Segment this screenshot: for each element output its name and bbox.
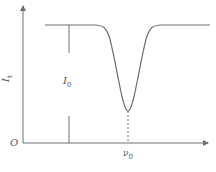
intensity-curve (45, 25, 210, 111)
i0-label-sub: 0 (67, 81, 71, 89)
nu0-label-sub: 0 (128, 153, 132, 161)
y-axis-label: It (1, 75, 14, 82)
nu0-label: ν0 (123, 149, 133, 161)
diagram-canvas (0, 0, 216, 172)
y-axis-label-sub: t (6, 75, 14, 78)
origin-label: O (10, 138, 18, 148)
y-axis-label-base: I (0, 78, 11, 82)
i0-label: I0 (63, 76, 71, 89)
